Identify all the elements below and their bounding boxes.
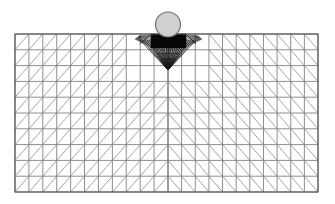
indenter-group (156, 12, 181, 37)
circular-rigid-indenter (156, 12, 181, 37)
fem-mesh-figure (0, 0, 335, 204)
mesh-canvas (0, 0, 335, 204)
